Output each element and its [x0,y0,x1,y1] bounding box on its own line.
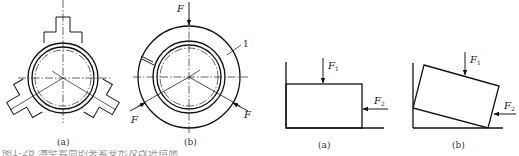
force-f2-label-b: F2 [503,100,515,112]
open-ring-figure: F F F 1 (b) [130,2,252,147]
upright-block-figure: F1 F2 (a) [286,58,388,150]
cut-off-caption: 图1-28 薄壁套筒的夹紧变形及改进措施 [2,150,178,156]
part-number-label: 1 [243,39,249,49]
force-label-left: F [130,114,139,125]
force-f2-label: F2 [373,95,385,107]
force-f1-label: F1 [327,60,339,72]
block-rectangle [286,84,362,128]
force-label-top: F [176,3,185,14]
caption-left-a: (a) [57,137,69,147]
caption-left-b: (b) [184,137,197,147]
cut-off-caption-strip: 图1-28 薄壁套筒的夹紧变形及改进措施 [0,150,519,156]
force-f1-label-b: F1 [469,54,481,66]
force-label-right: F [243,109,252,120]
force-arrow-left [130,103,145,111]
three-jaw-chuck-figure: (a) [1,0,126,147]
caption-right-b: (b) [452,140,465,150]
caption-right-a: (a) [318,140,330,150]
tilted-block-figure: F1 F2 (b) [413,52,516,150]
tilted-block [413,65,499,128]
diagram-canvas: (a) F F F 1 (b) F1 [0,0,519,156]
axis-stub-b [189,70,200,77]
